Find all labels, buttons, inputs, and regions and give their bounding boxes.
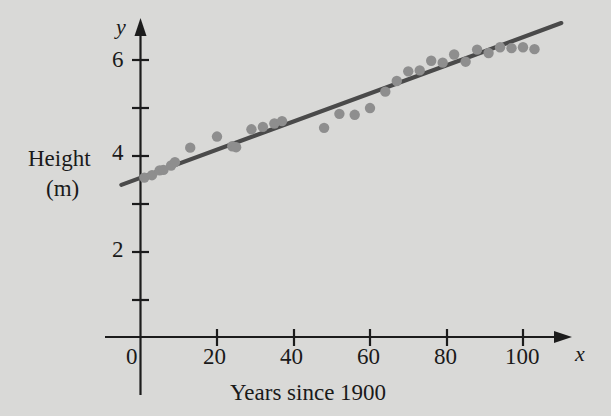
data-point (365, 103, 375, 113)
x-tick-label-80: 80 (434, 345, 457, 368)
data-point (437, 57, 447, 67)
origin-label: 0 (126, 345, 138, 368)
data-point (415, 65, 425, 75)
x-tick-label-40: 40 (280, 345, 303, 368)
data-point (258, 122, 268, 132)
y-tick-label-2: 2 (112, 238, 124, 261)
y-tick-label-4: 4 (112, 141, 124, 164)
x-axis-caption: Years since 1900 (230, 381, 386, 404)
data-point (231, 142, 241, 152)
data-point (506, 43, 516, 53)
data-point (426, 56, 436, 66)
data-point (319, 123, 329, 133)
data-point (449, 49, 459, 59)
x-tick-label-60: 60 (357, 345, 380, 368)
data-point (350, 110, 360, 120)
axes-group (105, 18, 572, 395)
data-point (246, 124, 256, 134)
data-point (472, 44, 482, 54)
y-axis-arrowhead (135, 18, 147, 36)
x-axis-variable-label: x (575, 343, 585, 365)
data-point (483, 48, 493, 58)
data-point (380, 86, 390, 96)
chart-figure: y x 6 4 2 0 20 40 60 80 100 Height (m) Y… (0, 0, 611, 416)
data-point (460, 56, 470, 66)
y-tick-label-6: 6 (112, 48, 124, 71)
data-point (495, 42, 505, 52)
data-point (334, 109, 344, 119)
data-point-group (139, 42, 540, 183)
x-tick-label-20: 20 (203, 345, 226, 368)
data-point (170, 157, 180, 167)
data-point (185, 142, 195, 152)
data-point (212, 131, 222, 141)
data-point (392, 76, 402, 86)
x-axis-arrowhead (554, 331, 572, 343)
data-point (277, 116, 287, 126)
data-point (518, 42, 528, 52)
y-axis-title-line2: (m) (46, 177, 79, 200)
x-tick-label-100: 100 (505, 345, 540, 368)
y-axis-title-line1: Height (28, 147, 91, 170)
y-axis-variable-label: y (116, 16, 126, 38)
data-point (529, 44, 539, 54)
data-point (403, 66, 413, 76)
